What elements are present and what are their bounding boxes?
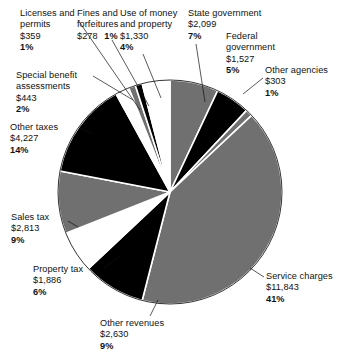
label-name-fines: Fines and <box>77 8 118 19</box>
pie-chart-canvas <box>0 0 353 364</box>
label-amount-state-government: $2,099 <box>188 19 261 30</box>
label-amount-service-charges: $11,843 <box>266 282 333 293</box>
label-name-federal-government: Federal <box>226 31 275 42</box>
label-amount-federal-government: $1,527 <box>226 54 275 65</box>
label-amount-sales-tax: $2,813 <box>11 223 49 234</box>
label-name-licenses-2: permits <box>20 19 75 30</box>
label-percent-other-revenues: 9% <box>100 341 164 352</box>
label-amount-other-taxes: $4,227 <box>10 133 58 144</box>
label-percent-use-of-money: 4% <box>120 42 177 53</box>
label-name-special-benefit: Special benefit <box>16 70 77 81</box>
label-percent-service-charges: 41% <box>266 294 333 305</box>
pie-chart-figure: Licenses and permits $359 1% Fines and f… <box>0 0 353 364</box>
label-percent-fines: 1% <box>104 31 117 41</box>
label-amount-licenses: $359 <box>20 31 75 42</box>
label-amount-property-tax: $1,886 <box>33 275 83 286</box>
label-amount-special-benefit: $443 <box>16 93 77 104</box>
label-name-sales-tax: Sales tax <box>11 212 49 223</box>
label-name-other-revenues: Other revenues <box>100 318 164 329</box>
label-name-state-government: State government <box>188 8 261 19</box>
label-name-use-of-money-2: and property <box>120 19 177 30</box>
label-percent-other-agencies: 1% <box>265 88 328 99</box>
label-amount-other-revenues: $2,630 <box>100 329 164 340</box>
slice-label-special-benefit-assessments: Special benefit assessments $443 2% <box>16 70 77 116</box>
slice-label-other-agencies: Other agencies $303 1% <box>265 65 328 99</box>
pie-slice-group <box>58 80 282 304</box>
label-name-licenses: Licenses and <box>20 8 75 19</box>
slice-label-service-charges: Service charges $11,843 41% <box>266 271 333 305</box>
slice-label-other-taxes: Other taxes $4,227 14% <box>10 122 58 156</box>
label-name-other-agencies: Other agencies <box>265 65 328 76</box>
slice-label-property-tax: Property tax $1,886 6% <box>33 264 83 298</box>
label-amount-other-agencies: $303 <box>265 76 328 87</box>
label-percent-licenses: 1% <box>20 42 75 53</box>
label-percent-other-taxes: 14% <box>10 145 58 156</box>
slice-label-fines-and-forfeitures: Fines and forfeitures $278 1% <box>77 8 118 42</box>
slice-label-use-of-money-and-property: Use of money and property $1,330 4% <box>120 8 177 54</box>
label-percent-sales-tax: 9% <box>11 235 49 246</box>
label-percent-special-benefit: 2% <box>16 104 77 115</box>
label-amount-fines: $278 <box>77 31 98 41</box>
label-name-service-charges: Service charges <box>266 271 333 282</box>
label-percent-property-tax: 6% <box>33 287 83 298</box>
label-name-property-tax: Property tax <box>33 264 83 275</box>
slice-label-other-revenues: Other revenues $2,630 9% <box>100 318 164 352</box>
label-name-use-of-money: Use of money <box>120 8 177 19</box>
leader-line-other-agencies <box>243 78 263 94</box>
label-name-special-benefit-2: assessments <box>16 81 77 92</box>
label-name-other-taxes: Other taxes <box>10 122 58 133</box>
leader-line-service-charges <box>250 268 264 277</box>
label-name-federal-government-2: government <box>226 42 275 53</box>
slice-label-sales-tax: Sales tax $2,813 9% <box>11 212 49 246</box>
label-amount-use-of-money: $1,330 <box>120 31 177 42</box>
label-name-fines-2: forfeitures <box>77 19 118 30</box>
slice-label-licenses-and-permits: Licenses and permits $359 1% <box>20 8 75 54</box>
